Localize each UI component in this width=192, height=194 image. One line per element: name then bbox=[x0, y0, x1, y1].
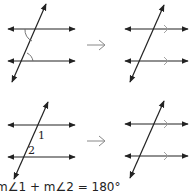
right-arrow-top bbox=[87, 40, 105, 50]
angle-label-1: 1 bbox=[38, 129, 45, 142]
angle-label-2: 2 bbox=[28, 144, 35, 157]
angle-sum-equation: m∠1 + m∠2 = 180° bbox=[0, 180, 120, 194]
diagram-bottom-right bbox=[125, 101, 188, 178]
right-arrow-bottom bbox=[87, 136, 105, 146]
diagram-top-right bbox=[125, 5, 188, 82]
geometry-figure: 1 2 bbox=[0, 0, 192, 194]
diagram-top-left bbox=[8, 4, 75, 82]
diagram-bottom-left: 1 2 bbox=[8, 102, 75, 179]
angle-arc-lower bbox=[27, 53, 33, 61]
